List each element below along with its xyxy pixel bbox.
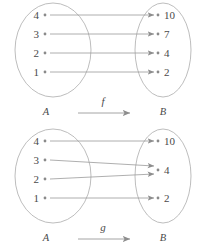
set-a-ellipse-top [15, 3, 91, 97]
set-b-label-top: B [160, 106, 167, 117]
codomain-dot-top-0 [157, 14, 160, 17]
set-b-ellipse-top [135, 3, 191, 97]
function-label-f: f [101, 95, 106, 107]
codomain-label-bottom-0: 10 [164, 135, 176, 147]
function-label-g: g [100, 221, 106, 233]
set-b-ellipse-bottom [135, 129, 191, 223]
domain-label-top-1: 3 [34, 28, 40, 40]
codomain-label-top-2: 4 [164, 47, 170, 59]
domain-label-top-0: 4 [34, 9, 40, 21]
set-a-label-top: A [42, 106, 50, 117]
domain-dot-bottom-2 [44, 178, 47, 181]
mapping-diagram-figure: 4 3 2 1 10 7 4 2 A B f [0, 0, 200, 252]
domain-label-top-3: 1 [34, 66, 40, 78]
domain-dot-bottom-3 [44, 197, 47, 200]
domain-label-bottom-2: 2 [34, 173, 40, 185]
mapping-arrow-g-3-to-4 [50, 160, 154, 166]
domain-dot-bottom-1 [44, 159, 47, 162]
diagram-g: 4 3 2 1 10 4 2 A B g [15, 129, 191, 243]
domain-dot-top-1 [44, 33, 47, 36]
codomain-dot-top-2 [157, 52, 160, 55]
codomain-label-top-1: 7 [164, 28, 170, 40]
domain-label-bottom-0: 4 [34, 135, 40, 147]
domain-label-bottom-3: 1 [34, 192, 40, 204]
diagram-f: 4 3 2 1 10 7 4 2 A B f [15, 3, 191, 117]
set-a-label-bottom: A [42, 232, 50, 243]
domain-dot-top-2 [44, 52, 47, 55]
codomain-label-top-0: 10 [164, 9, 176, 21]
codomain-dot-top-3 [157, 71, 160, 74]
mapping-arrow-g-2-to-4 [50, 174, 154, 179]
codomain-dot-top-1 [157, 33, 160, 36]
domain-label-top-2: 2 [34, 47, 40, 59]
codomain-label-top-3: 2 [164, 66, 170, 78]
codomain-label-bottom-1: 4 [164, 164, 170, 176]
codomain-label-bottom-2: 2 [164, 192, 170, 204]
codomain-dot-bottom-1 [157, 169, 160, 172]
set-a-ellipse-bottom [15, 129, 91, 223]
codomain-dot-bottom-0 [157, 140, 160, 143]
domain-dot-top-3 [44, 71, 47, 74]
set-b-label-bottom: B [160, 232, 167, 243]
codomain-dot-bottom-2 [157, 197, 160, 200]
domain-dot-bottom-0 [44, 140, 47, 143]
domain-label-bottom-1: 3 [34, 154, 40, 166]
figure-container: 4 3 2 1 10 7 4 2 A B f [0, 0, 200, 252]
domain-dot-top-0 [44, 14, 47, 17]
